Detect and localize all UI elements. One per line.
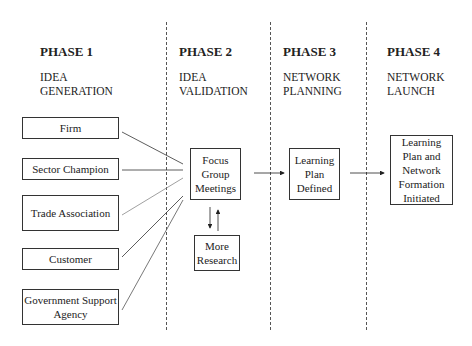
source-trade-association: Trade Association [22, 195, 119, 231]
source-sector-champion: Sector Champion [22, 158, 119, 180]
network-launch-node: Learning Plan and Network Formation Init… [390, 135, 453, 205]
focus-group-meetings-node: Focus Group Meetings [190, 148, 241, 200]
learning-plan-defined-node: Learning Plan Defined [289, 148, 340, 200]
phase-diagram: PHASE 1 IDEAGENERATION PHASE 2 IDEAVALID… [0, 0, 472, 346]
source-firm: Firm [22, 117, 119, 139]
source-customer: Customer [22, 248, 119, 270]
more-research-node: More Research [194, 235, 240, 271]
source-government-support-agency: Government Support Agency [22, 289, 119, 325]
